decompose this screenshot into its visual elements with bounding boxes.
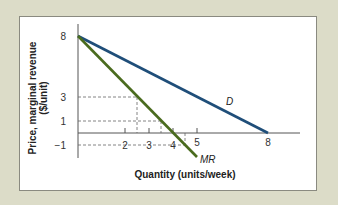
x-tick-3: 3 (146, 140, 152, 151)
chart-svg: 8 3 1 −1 2 3 4 5 8 D MR Quantity (units/… (0, 0, 338, 205)
y-tick-8: 8 (60, 31, 66, 42)
x-tick-5: 5 (194, 137, 200, 148)
x-axis-title: Quantity (units/week) (134, 169, 235, 180)
mr-label: MR (200, 154, 216, 165)
y-tick-1: 1 (60, 116, 66, 127)
y-axis-title-line1: Price, marginal revenue (27, 41, 38, 154)
x-tick-4: 4 (170, 140, 176, 151)
demand-label: D (226, 96, 233, 107)
y-tick-3: 3 (60, 92, 66, 103)
x-tick-8: 8 (265, 137, 271, 148)
demand-curve (78, 36, 268, 133)
y-tick-minus1: −1 (55, 140, 67, 151)
mr-curve (78, 36, 197, 157)
y-axis-title-line2: ($/unit) (38, 81, 49, 114)
x-tick-2: 2 (122, 140, 128, 151)
